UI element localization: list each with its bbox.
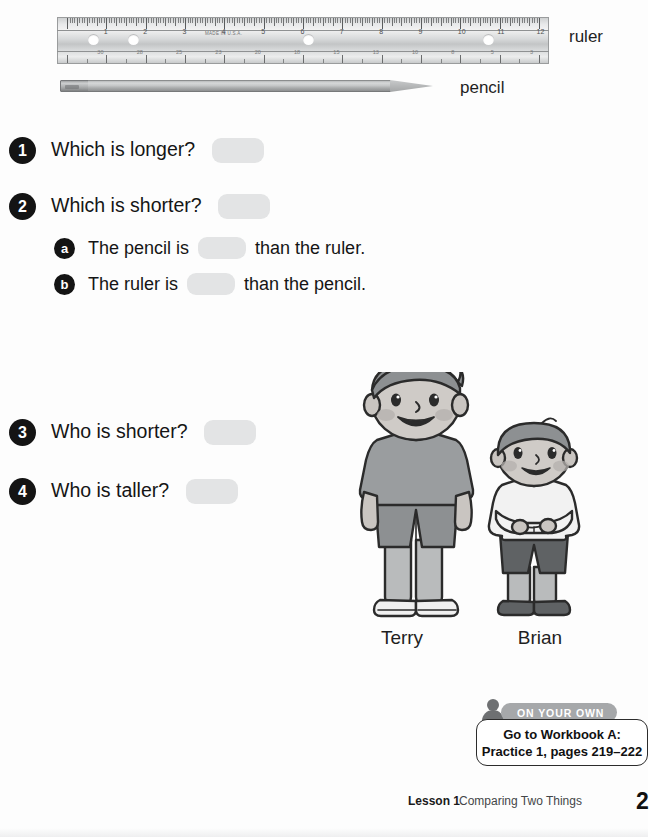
ruler-tick (505, 18, 506, 23)
ruler-tick (352, 18, 353, 26)
ruler-tick (512, 18, 513, 23)
ruler-tick (306, 18, 307, 23)
ruler-tick (200, 18, 201, 23)
ruler-tick (202, 18, 203, 23)
ruler-tick (74, 18, 75, 23)
ruler-tick (197, 18, 198, 23)
children-svg (330, 372, 620, 657)
answer-blank-4[interactable] (186, 479, 238, 504)
ruler-tick (451, 18, 452, 26)
ruler-tick (217, 18, 218, 23)
question-text-3: Who is shorter? (51, 420, 256, 445)
ruler-tick (387, 18, 388, 23)
question-2: 2 Which is shorter? (9, 193, 270, 220)
ruler-tick (237, 18, 238, 23)
ruler-tick-bottom (480, 59, 481, 63)
ruler-tick (141, 18, 142, 23)
ruler-tick (443, 18, 444, 23)
ruler-tick (517, 18, 518, 23)
ruler-tick (537, 18, 538, 23)
ruler-tick (293, 18, 294, 26)
ruler-tick-bottom (67, 55, 68, 63)
answer-blank-3[interactable] (204, 420, 256, 445)
ruler-tick (367, 18, 368, 23)
ruler-tick (195, 18, 196, 26)
ruler-tick (269, 18, 270, 23)
ruler-tick (495, 18, 496, 23)
workbook-line-1: Go to Workbook A: (503, 727, 621, 742)
ruler-tick (276, 18, 277, 23)
ruler-tick-bottom (382, 55, 383, 63)
question-3-label: Who is shorter? (51, 420, 188, 442)
ruler-tick (121, 18, 122, 23)
ruler-tick (301, 18, 302, 23)
ruler-tick (502, 18, 503, 23)
ruler-tick-bottom (441, 59, 442, 63)
answer-blank-2a[interactable] (198, 237, 246, 259)
ruler-hole (303, 34, 314, 45)
page-number: 2 (636, 788, 649, 815)
ruler-tick (232, 18, 233, 23)
ruler-tick (485, 18, 486, 23)
ruler-tick (278, 18, 279, 23)
answer-blank-2[interactable] (218, 194, 270, 219)
ruler-number: 10 (458, 28, 466, 35)
ruler-tick (325, 18, 326, 23)
ruler-tick (534, 18, 535, 23)
question-2b-text: The ruler is than the pencil. (88, 273, 366, 295)
ruler-tick (249, 18, 250, 23)
ruler-tick (475, 18, 476, 23)
ruler-tick (109, 18, 110, 23)
ruler-number-metric: 15 (333, 50, 339, 56)
brian-name-label: Brian (500, 627, 580, 649)
ruler-tick (374, 18, 375, 23)
children-illustration (330, 372, 620, 657)
ruler-tick (453, 18, 454, 23)
answer-blank-1[interactable] (212, 138, 264, 163)
ruler-hole (128, 34, 139, 45)
sub-marker-a: a (54, 238, 75, 259)
ruler-number: 1 (104, 28, 108, 35)
question-number-1: 1 (9, 137, 36, 164)
ruler-tick (320, 18, 321, 23)
ruler-tick (507, 18, 508, 23)
ruler-tick (308, 18, 309, 23)
ruler-tick (315, 18, 316, 23)
ruler-tick (151, 18, 152, 23)
question-text-1: Which is longer? (51, 138, 264, 163)
ruler-tick (426, 18, 427, 23)
ruler-tick (487, 18, 488, 23)
ruler-tick (470, 18, 471, 26)
page-footer: Lesson 1 Comparing Two Things 2 (0, 794, 648, 816)
ruler-tick (205, 18, 206, 26)
ruler-number: 4 (222, 28, 226, 35)
ruler-tick (411, 18, 412, 26)
ruler-tick (424, 18, 425, 23)
ruler-tick (143, 18, 144, 23)
terry-name-label: Terry (362, 627, 442, 649)
ruler-tick (148, 18, 149, 23)
ruler-tick (271, 18, 272, 23)
ruler-tick (138, 18, 139, 23)
ruler-label: ruler (569, 27, 603, 47)
ruler-tick (99, 18, 100, 23)
ruler-tick (350, 18, 351, 23)
ruler-tick (478, 18, 479, 23)
question-number-2: 2 (9, 193, 36, 220)
question-text-2: Which is shorter? (51, 194, 270, 219)
ruler-tick (131, 18, 132, 23)
ruler-tick (345, 18, 346, 23)
ruler-number: 12 (537, 28, 545, 35)
ruler-tick (266, 18, 267, 23)
ruler-tick (392, 18, 393, 26)
ruler-tick (281, 18, 282, 23)
answer-blank-2b[interactable] (187, 273, 235, 295)
question-4-label: Who is taller? (51, 479, 169, 501)
ruler-tick-bottom (244, 59, 245, 63)
ruler-tick (242, 18, 243, 23)
ruler-number: 8 (379, 28, 383, 35)
ruler-tick (365, 18, 366, 23)
ruler-tick (404, 18, 405, 23)
ruler-tick (335, 18, 336, 23)
ruler-tick (446, 18, 447, 23)
